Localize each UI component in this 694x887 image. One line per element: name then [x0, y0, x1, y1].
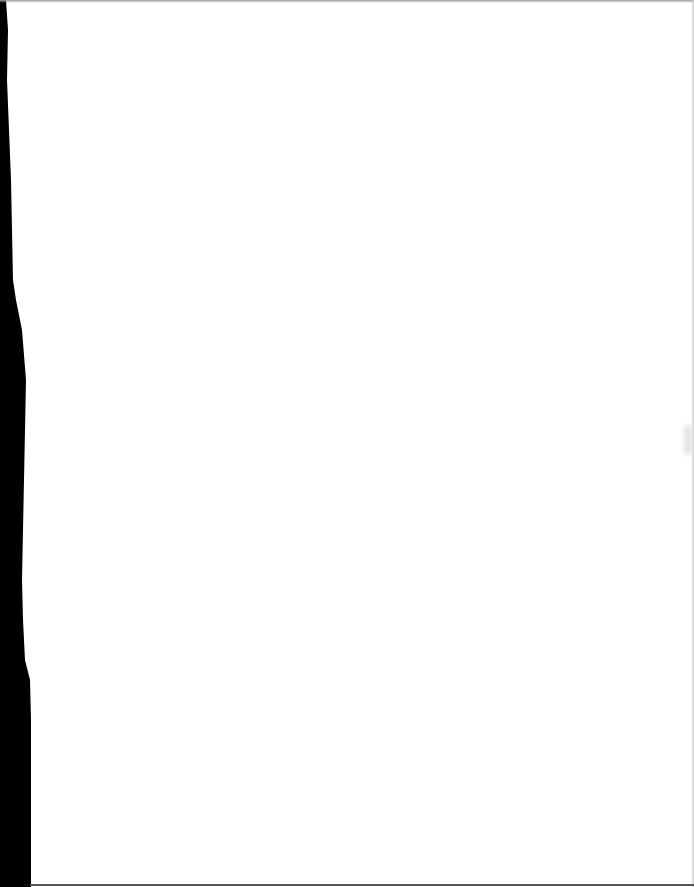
scan-smudge	[684, 425, 692, 455]
scan-border-left	[0, 0, 40, 887]
scan-top-shadow	[0, 0, 694, 3]
scan-bottom-edge	[30, 884, 694, 886]
scanned-page	[0, 0, 694, 887]
